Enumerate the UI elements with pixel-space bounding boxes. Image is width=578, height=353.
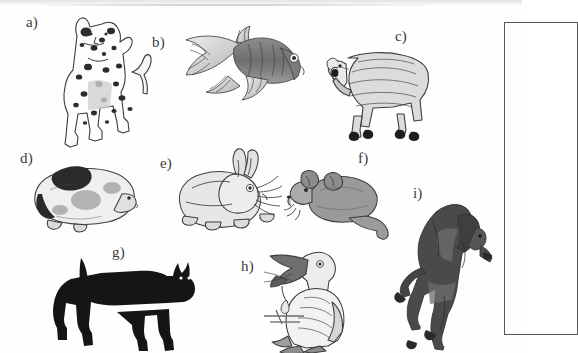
figure-label-f: f) bbox=[358, 150, 368, 167]
figure-label-a: a) bbox=[26, 14, 38, 31]
figure-horse-icon bbox=[392, 198, 504, 350]
figure-mouse-icon bbox=[284, 166, 390, 240]
figure-label-b: b) bbox=[152, 34, 165, 51]
figure-sheep-icon bbox=[318, 40, 436, 144]
answer-box bbox=[504, 22, 578, 335]
figure-fish-icon bbox=[172, 24, 306, 112]
figure-pelican-icon bbox=[258, 238, 362, 352]
figure-guinea-pig-icon bbox=[26, 164, 138, 234]
scan-edge-artifact-2 bbox=[30, 4, 450, 6]
figure-label-h: h) bbox=[241, 258, 254, 275]
figure-rabbit-icon bbox=[172, 148, 282, 240]
figure-dog-icon bbox=[44, 10, 160, 142]
figure-cat-icon bbox=[55, 250, 197, 346]
figure-label-e: e) bbox=[160, 155, 172, 172]
